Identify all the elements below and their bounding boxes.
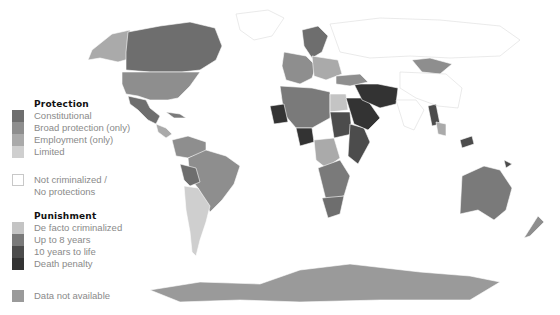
legend-label: De facto criminalized	[34, 222, 122, 234]
legend-label: Employment (only)	[34, 134, 113, 146]
region-east-africa	[348, 124, 370, 164]
swatch-broad-protection	[12, 122, 24, 134]
region-south-africa	[322, 196, 344, 218]
region-papua-new-guinea	[504, 160, 512, 168]
legend-item-de-facto: De facto criminalized	[12, 222, 122, 234]
region-alaska	[88, 30, 132, 62]
legend-label: Data not available	[34, 290, 110, 302]
region-malaysia	[460, 136, 474, 148]
region-southeast-asia	[436, 122, 446, 136]
region-sudan	[330, 112, 352, 138]
legend-item-constitutional: Constitutional	[12, 110, 130, 122]
legend-protection-title: Protection	[34, 98, 130, 110]
region-southern-africa	[318, 160, 350, 200]
region-united-states	[122, 72, 200, 100]
legend-label: 10 years to life	[34, 246, 96, 258]
swatch-constitutional	[12, 110, 24, 122]
legend-protection: Protection Constitutional Broad protecti…	[12, 98, 130, 158]
legend-item-10-to-life: 10 years to life	[12, 246, 122, 258]
swatch-no-data	[12, 290, 24, 302]
swatch-employment	[12, 134, 24, 146]
legend-label: Broad protection (only)	[34, 122, 130, 134]
region-mongolia	[412, 58, 452, 74]
region-egypt	[330, 94, 348, 112]
region-antarctica	[150, 264, 500, 302]
legend-item-broad-protection: Broad protection (only)	[12, 122, 130, 134]
legend-item-limited: Limited	[12, 146, 130, 158]
region-central-america	[156, 124, 172, 138]
legend-punishment: Punishment De facto criminalized Up to 8…	[12, 210, 122, 270]
region-greenland	[236, 10, 284, 40]
legend-item-not-criminalized: Not criminalized / No protections	[12, 174, 107, 198]
region-china	[400, 72, 462, 108]
swatch-limited	[12, 146, 24, 158]
legend-label: Not criminalized /	[34, 174, 107, 186]
swatch-not-criminalized	[12, 174, 24, 186]
swatch-up-to-8	[12, 234, 24, 246]
region-new-zealand	[524, 216, 544, 238]
legend-label: Limited	[34, 146, 65, 158]
legend-item-no-data: Data not available	[12, 290, 110, 302]
swatch-10-to-life	[12, 246, 24, 258]
swatch-de-facto	[12, 222, 24, 234]
region-caribbean	[166, 112, 186, 118]
region-russia	[330, 18, 520, 58]
legend-label: Up to 8 years	[34, 234, 91, 246]
legend-item-death-penalty: Death penalty	[12, 258, 122, 270]
region-canada	[126, 22, 222, 72]
legend-item-employment: Employment (only)	[12, 134, 130, 146]
legend-label: No protections	[34, 186, 107, 198]
legend-label: Death penalty	[34, 258, 93, 270]
legend-punishment-title: Punishment	[34, 210, 122, 222]
region-scandinavia	[302, 26, 328, 58]
swatch-death-penalty	[12, 258, 24, 270]
region-nigeria	[296, 128, 314, 146]
region-india	[396, 100, 424, 130]
region-australia	[460, 166, 512, 220]
legend-label: Constitutional	[34, 110, 92, 122]
legend-item-up-to-8: Up to 8 years	[12, 234, 122, 246]
